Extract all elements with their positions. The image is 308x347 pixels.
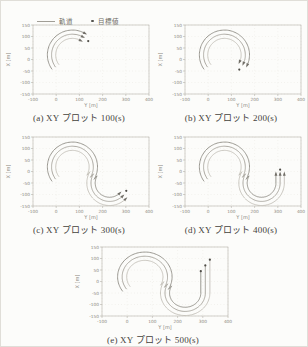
figure: 軌道 目標値 -1000100200300400150100500-50-100…	[0, 0, 308, 347]
y-tick-label: -50	[23, 181, 30, 186]
x-tick-label: 0	[55, 97, 58, 102]
trajectory-line	[56, 150, 126, 205]
target-dot	[209, 259, 211, 261]
subplot-c: -1000100200300400150100500-50-100-150Y […	[3, 134, 155, 236]
y-tick-label: -150	[20, 204, 30, 209]
y-tick-label: 150	[91, 245, 99, 250]
heading-arrow	[246, 63, 249, 68]
y-tick-label: 100	[174, 34, 182, 39]
x-tick-label: 100	[148, 319, 156, 324]
subplot-c-canvas: -1000100200300400150100500-50-100-150Y […	[3, 134, 155, 222]
subplot-d-canvas: -1000100200300400150100500-50-100-150Y […	[155, 134, 307, 222]
subplot-e-caption: (e) XY プロット 500(s)	[72, 333, 234, 346]
y-tick-label: 150	[174, 23, 182, 28]
x-tick-label: 300	[122, 209, 130, 214]
y-axis-label: X [m]	[74, 275, 80, 289]
trajectory-line	[122, 256, 205, 311]
y-axis-label: X [m]	[157, 53, 163, 67]
subplot-a-caption: (a) XY プロット 100(s)	[3, 111, 155, 124]
x-tick-label: 0	[55, 209, 58, 214]
x-axis-label: Y [m]	[83, 214, 97, 220]
x-tick-label: 300	[122, 97, 130, 102]
x-tick-label: 300	[274, 209, 282, 214]
x-tick-label: 400	[297, 97, 305, 102]
y-tick-label: 50	[94, 268, 100, 273]
y-tick-label: 0	[27, 57, 30, 62]
heading-arrow	[78, 38, 83, 41]
target-dot	[87, 40, 89, 42]
target-dot	[204, 264, 206, 266]
x-axis-label: Y [m]	[235, 102, 249, 108]
x-tick-label: 200	[250, 97, 258, 102]
y-tick-label: 100	[174, 146, 182, 151]
trajectory-line	[47, 142, 119, 197]
x-tick-label: 300	[274, 97, 282, 102]
x-tick-label: 100	[227, 209, 235, 214]
x-tick-label: 100	[75, 209, 83, 214]
subplot-d: -1000100200300400150100500-50-100-150Y […	[155, 134, 307, 236]
x-tick-label: 0	[207, 97, 210, 102]
heading-arrow	[279, 171, 282, 175]
trajectory-line	[56, 38, 81, 64]
subplot-e-canvas: -1000100200300400150100500-50-100-150Y […	[72, 244, 234, 332]
subplot-b: -1000100200300400150100500-50-100-150Y […	[155, 22, 307, 124]
x-tick-label: 0	[207, 209, 210, 214]
target-dot	[200, 270, 202, 272]
subplot-a: -1000100200300400150100500-50-100-150Y […	[3, 22, 155, 124]
x-axis-label: Y [m]	[157, 324, 171, 330]
heading-arrow	[275, 171, 278, 175]
x-tick-label: -100	[97, 319, 107, 324]
heading-arrow	[83, 31, 88, 34]
y-tick-label: 50	[177, 158, 183, 163]
y-tick-label: -150	[172, 92, 182, 97]
y-tick-label: -50	[175, 69, 182, 74]
y-tick-label: 50	[25, 158, 31, 163]
y-axis-label: X [m]	[5, 165, 11, 179]
subplot-c-caption: (c) XY プロット 300(s)	[3, 223, 155, 236]
subplot-e: -1000100200300400150100500-50-100-150Y […	[72, 244, 234, 346]
trajectory-line	[199, 30, 249, 69]
x-tick-label: 400	[297, 209, 305, 214]
y-tick-label: 0	[179, 57, 182, 62]
x-tick-label: 0	[126, 319, 129, 324]
x-tick-label: 200	[250, 209, 258, 214]
trajectory-line	[204, 146, 281, 201]
y-tick-label: 100	[22, 34, 30, 39]
x-tick-label: -100	[28, 209, 38, 214]
x-tick-label: 200	[98, 97, 106, 102]
y-tick-label: -50	[92, 291, 99, 296]
x-tick-label: 100	[75, 97, 83, 102]
x-axis-label: Y [m]	[235, 214, 249, 220]
subplot-b-caption: (b) XY プロット 200(s)	[155, 111, 307, 124]
y-tick-label: -100	[20, 192, 30, 197]
y-tick-label: -100	[89, 302, 99, 307]
x-tick-label: 300	[199, 319, 207, 324]
y-tick-label: -100	[20, 80, 30, 85]
y-tick-label: 150	[22, 135, 30, 140]
heading-arrow	[242, 61, 245, 66]
heading-arrow	[239, 60, 242, 65]
y-tick-label: -50	[23, 69, 30, 74]
y-tick-label: 100	[91, 256, 99, 261]
y-tick-label: -50	[175, 181, 182, 186]
y-tick-label: 0	[179, 169, 182, 174]
y-tick-label: 150	[174, 135, 182, 140]
y-tick-label: -150	[20, 92, 30, 97]
y-tick-label: 50	[25, 46, 31, 51]
x-tick-label: 400	[224, 319, 232, 324]
x-tick-label: 200	[98, 209, 106, 214]
y-tick-label: -100	[172, 80, 182, 85]
y-tick-label: 150	[22, 23, 30, 28]
subplot-d-caption: (d) XY プロット 400(s)	[155, 223, 307, 236]
subplot-a-canvas: -1000100200300400150100500-50-100-150Y […	[3, 22, 155, 110]
heading-arrow	[283, 171, 286, 175]
x-tick-label: 400	[145, 209, 153, 214]
x-tick-label: -100	[180, 97, 190, 102]
x-tick-label: 200	[173, 319, 181, 324]
y-tick-label: 100	[22, 146, 30, 151]
target-dot	[125, 190, 127, 192]
y-tick-label: 50	[177, 46, 183, 51]
y-tick-label: 0	[27, 169, 30, 174]
x-axis-label: Y [m]	[83, 102, 97, 108]
x-tick-label: 100	[227, 97, 235, 102]
